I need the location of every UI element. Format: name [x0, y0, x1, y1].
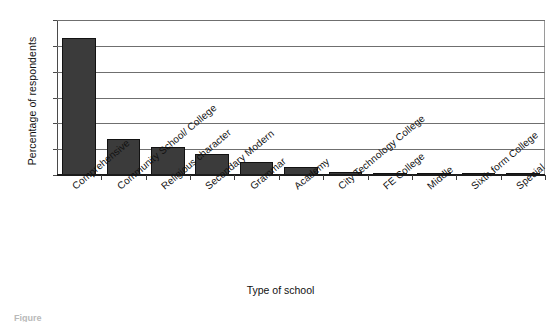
x-axis-tick-mark — [146, 175, 147, 180]
x-axis-tick-mark — [412, 175, 413, 180]
x-axis-tick-mark — [323, 175, 324, 180]
x-axis-tick-mark — [456, 175, 457, 180]
gridline — [57, 123, 545, 124]
gridline — [57, 72, 545, 73]
x-axis-tick-mark — [545, 175, 546, 180]
x-axis-title: Type of school — [0, 284, 557, 296]
x-axis-tick-mark — [279, 175, 280, 180]
gridline — [57, 20, 545, 21]
x-axis-tick-mark — [190, 175, 191, 180]
gridline — [57, 46, 545, 47]
y-axis-title: Percentage of respondents — [26, 16, 38, 186]
x-axis-tick-mark — [368, 175, 369, 180]
figure-caption: Figure — [14, 313, 42, 322]
x-axis-category-labels: ComprehensiveCommunity School/ CollegeRe… — [0, 181, 557, 276]
bar-chart-figure: Percentage of respondents 0102030405060 … — [0, 0, 557, 322]
x-axis-tick-mark — [101, 175, 102, 180]
plot-area — [57, 20, 545, 175]
x-axis-title-text: Type of school — [247, 284, 315, 296]
gridline — [57, 98, 545, 99]
bar — [62, 38, 96, 175]
x-axis-tick-mark — [234, 175, 235, 180]
x-axis-tick-mark — [501, 175, 502, 180]
